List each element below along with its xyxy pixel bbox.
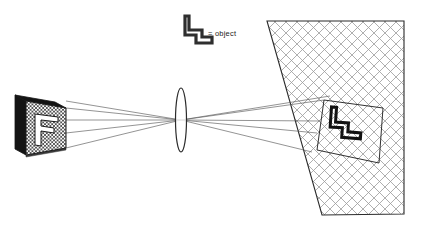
lens-body (176, 88, 187, 152)
ray-left-3 (66, 120, 181, 133)
slab-left-face (15, 95, 26, 155)
converging-lens (176, 88, 187, 152)
ray-left-5 (66, 101, 181, 120)
ray-left-1 (66, 108, 181, 120)
ray-bundle (66, 96, 330, 152)
legend: = object (185, 16, 237, 43)
object-slab (15, 95, 66, 157)
optics-diagram-svg: = object (0, 0, 423, 231)
ray-right-4 (181, 120, 312, 152)
ray-left-4 (66, 120, 181, 148)
optics-diagram-canvas: = object (0, 0, 423, 231)
legend-label: object (215, 29, 237, 38)
legend-equals-sign: = (208, 29, 213, 38)
